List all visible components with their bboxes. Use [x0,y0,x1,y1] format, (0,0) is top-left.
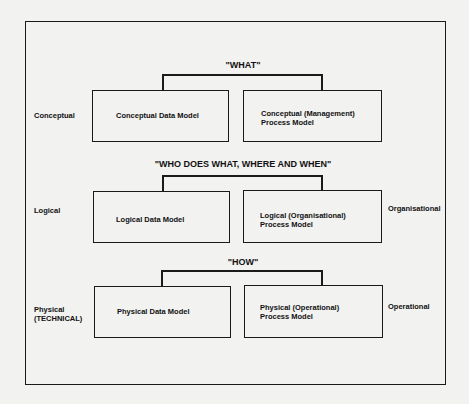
box-label-line2: Process Model [260,312,313,321]
box-label: Logical Data Model [116,215,184,224]
physical-process-model-box: Physical (Operational) Process Model [244,285,383,338]
box-label: Physical Data Model [117,307,190,316]
level-label-logical: Logical [34,206,60,215]
physical-data-model-box: Physical Data Model [94,286,231,338]
level-label-physical: Physical [34,305,64,314]
logical-process-model-box: Logical (Organisational) Process Model [243,190,382,243]
box-label-line1: Physical (Operational) [260,303,339,312]
box-label-line2: Process Model [261,118,314,127]
connector-bracket [162,74,323,91]
conceptual-data-model-box: Conceptual Data Model [92,90,229,142]
row-title-what: "WHAT" [226,60,261,70]
logical-data-model-box: Logical Data Model [93,191,230,243]
box-label-line1: Conceptual (Management) [261,109,355,118]
right-label-organisational: Organisational [388,204,441,213]
row-title-who-does-what: "WHO DOES WHAT, WHERE AND WHEN" [155,159,332,169]
level-label-technical: (TECHNICAL) [34,314,82,323]
right-label-operational: Operational [388,302,430,311]
box-label: Conceptual Data Model [116,111,199,120]
level-label-conceptual: Conceptual [34,111,75,120]
box-label-line1: Logical (Organisational) [260,211,346,220]
box-label-line2: Process Model [260,220,313,229]
row-title-how: "HOW" [228,257,259,267]
conceptual-process-model-box: Conceptual (Management) Process Model [243,90,382,142]
